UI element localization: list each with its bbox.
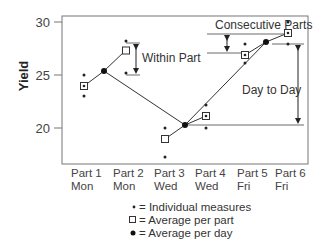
x-label-part4: Part 4 [195, 167, 226, 179]
legend-open-square-icon [130, 217, 136, 223]
legend-small-dot-icon [133, 206, 136, 209]
x-label-day2: Mon [113, 180, 135, 192]
annotation-within-part: Within Part [142, 51, 201, 65]
y-tick-30: 30 [36, 15, 50, 30]
x-label-day1: Mon [71, 180, 93, 192]
y-tick-20: 20 [36, 121, 50, 136]
variation-chart: 30 25 20 Yield Within Part Consecutive P… [0, 0, 324, 244]
legend-filled-dot-icon [131, 231, 136, 236]
x-axis-labels: Part 1 Mon Part 2 Mon Part 3 Wed Part 4 … [71, 167, 306, 192]
legend-day-average: = Average per day [139, 227, 233, 239]
y-axis-label: Yield [16, 61, 31, 92]
annotation-consecutive-parts: Consecutive Parts [215, 18, 312, 32]
annotation-day-to-day: Day to Day [242, 83, 301, 97]
legend: = Individual measures = Average per part… [130, 201, 252, 239]
part-average-centers [83, 32, 290, 118]
x-label-part1: Part 1 [71, 167, 102, 179]
x-label-day4: Wed [195, 180, 218, 192]
x-label-day5: Fri [237, 180, 250, 192]
y-axis: 30 25 20 Yield [16, 15, 62, 136]
annotation-guides [126, 34, 304, 125]
legend-individual: = Individual measures [139, 201, 251, 213]
x-label-part5: Part 5 [237, 167, 268, 179]
x-label-part6: Part 6 [275, 167, 306, 179]
legend-part-average: = Average per part [139, 214, 235, 226]
x-label-part3: Part 3 [154, 167, 185, 179]
y-tick-25: 25 [36, 68, 50, 83]
x-label-day3: Wed [154, 180, 177, 192]
x-label-part2: Part 2 [113, 167, 144, 179]
x-label-day6: Fri [275, 180, 288, 192]
